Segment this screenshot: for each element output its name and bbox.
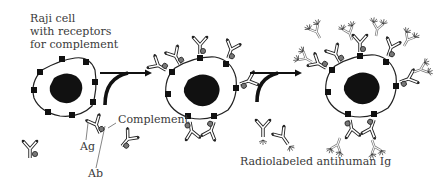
complement-label: Complement bbox=[118, 113, 189, 126]
radiolabeled-antihuman-ig-label: Radiolabeled antihuman Ig bbox=[240, 155, 391, 168]
diagram-canvas: Raji cell with receptors for complement … bbox=[0, 0, 437, 190]
raji-cell-label-line1: Raji cell bbox=[30, 12, 75, 25]
immune-complex-icon bbox=[85, 113, 108, 137]
raji-cell-3 bbox=[292, 17, 434, 160]
raji-cell-2 bbox=[146, 36, 260, 142]
antigen-label: Ag bbox=[80, 140, 95, 153]
radiolabeled-antibody-icon bbox=[271, 124, 300, 155]
raji-cell-1 bbox=[31, 56, 98, 118]
radiolabeled-antibody-icon bbox=[255, 119, 272, 145]
raji-cell-label-line2: with receptors bbox=[30, 25, 111, 38]
free-antibody-icon bbox=[22, 140, 39, 158]
arrow-1-icon bbox=[100, 70, 152, 106]
raji-cell-label-line3: for complement bbox=[30, 38, 118, 51]
antibody-label: Ab bbox=[88, 167, 103, 180]
immune-complex-icon bbox=[116, 127, 140, 152]
